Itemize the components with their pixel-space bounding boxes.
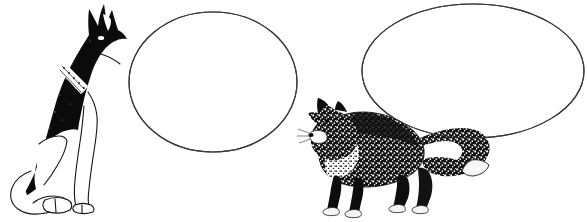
fox-whiskers [297,129,310,143]
fox-hind-right-leg [416,168,432,212]
fox-front-left-paw [323,208,339,216]
fox-figure [0,0,587,222]
fox-muzzle [310,131,327,144]
fox-ear-right [335,101,347,112]
fox-head [308,98,358,160]
fox-hind-left-paw [389,205,405,213]
fox-eye [325,119,330,122]
fox-nose [308,133,313,137]
walking-fox [297,98,490,218]
fox-hind-right-paw [412,206,428,214]
illustration-canvas: black-and-white line art / halftone clip… [0,0,587,222]
fox-front-right-paw [345,210,361,218]
